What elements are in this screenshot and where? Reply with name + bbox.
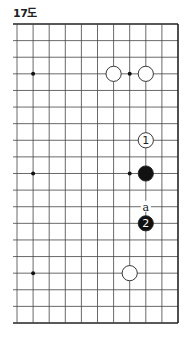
star-point-icon: [128, 171, 132, 175]
star-point-icon: [31, 171, 35, 175]
star-point-icon: [31, 271, 35, 275]
star-point-icon: [128, 72, 132, 76]
go-board: a12: [0, 0, 191, 345]
marker-label: a: [143, 201, 150, 214]
black-stone-icon: [138, 166, 153, 181]
white-stone-icon: [122, 266, 137, 281]
star-point-icon: [31, 72, 35, 76]
white-stone-icon: [106, 66, 121, 81]
stone-move-number: 2: [142, 217, 149, 230]
white-stone-icon: [138, 66, 153, 81]
stone-move-number: 1: [142, 134, 149, 147]
